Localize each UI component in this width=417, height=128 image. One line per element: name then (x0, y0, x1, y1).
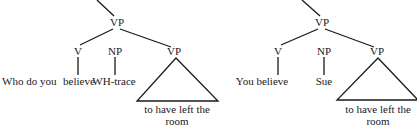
right-vp-triangle (337, 58, 417, 100)
right-parent-edge (302, 0, 320, 16)
left-edge-vp (120, 29, 171, 47)
left-edge-v (80, 29, 113, 45)
right-np-node: NP (317, 45, 331, 57)
right-vp-node: VP (370, 45, 384, 57)
right-v-leaf: You believe (236, 75, 288, 87)
left-vp-leaf-line2: room (165, 115, 189, 127)
right-np-leaf: Sue (316, 75, 333, 87)
left-v-leaf: believe (63, 75, 95, 87)
right-edge-vp (325, 29, 374, 47)
left-parent-edge (97, 0, 114, 16)
right-v-node: V (274, 45, 282, 57)
left-v-node: V (74, 45, 82, 57)
syntax-tree-diagram: VP V NP VP Who do you believe WH-trace t… (0, 0, 417, 128)
right-tree: VP V NP VP You believe Sue to have left … (236, 0, 417, 127)
left-vp-triangle (137, 58, 218, 101)
left-np-node: NP (108, 45, 122, 57)
left-tree: VP V NP VP Who do you believe WH-trace t… (2, 0, 218, 127)
right-vp-leaf-line1: to have left the (345, 103, 411, 115)
left-prefix-text: Who do you (2, 75, 57, 87)
left-vp-node: VP (167, 45, 181, 57)
right-edge-v (281, 29, 318, 45)
left-root-vp: VP (110, 16, 124, 28)
left-vp-leaf-line1: to have left the (144, 103, 210, 115)
right-vp-leaf-line2: room (366, 115, 390, 127)
right-root-vp: VP (315, 16, 329, 28)
left-np-leaf: WH-trace (92, 75, 135, 87)
